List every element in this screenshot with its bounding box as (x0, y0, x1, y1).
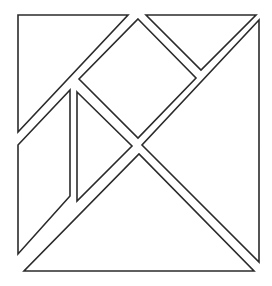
tangram-diagram (0, 0, 272, 286)
